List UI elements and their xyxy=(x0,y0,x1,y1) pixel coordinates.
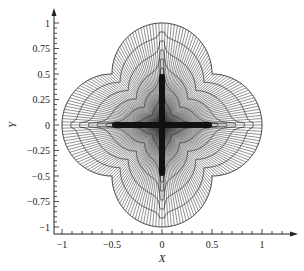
y-tick-label: −0.25 xyxy=(27,145,50,156)
x-tick-label: −1 xyxy=(57,239,68,250)
x-ticks: −1−0.500.51 xyxy=(57,229,282,250)
y-tick-label: 1 xyxy=(45,18,50,29)
y-axis-arrow-icon xyxy=(52,8,57,16)
x-tick-label: 1 xyxy=(260,239,265,250)
y-tick-label: −1 xyxy=(39,222,50,233)
y-tick-label: −0.5 xyxy=(32,171,50,182)
y-tick-label: −0.75 xyxy=(27,196,50,207)
y-tick-label: 0 xyxy=(45,120,50,131)
mesh-plot: −1−0.500.51 10.750.50.250−0.25−0.5−0.75−… xyxy=(0,0,304,271)
x-tick-label: 0 xyxy=(160,239,165,250)
y-tick-label: 0.75 xyxy=(33,43,51,54)
y-tick-label: 0.25 xyxy=(33,94,51,105)
mesh-lines xyxy=(62,23,262,227)
y-tick-label: 0.5 xyxy=(38,69,51,80)
x-tick-label: −0.5 xyxy=(103,239,121,250)
x-axis-arrow-icon xyxy=(290,232,298,237)
x-axis-label: X xyxy=(158,252,167,264)
y-axis-label: Y xyxy=(6,120,18,128)
x-tick-label: 0.5 xyxy=(206,239,219,250)
